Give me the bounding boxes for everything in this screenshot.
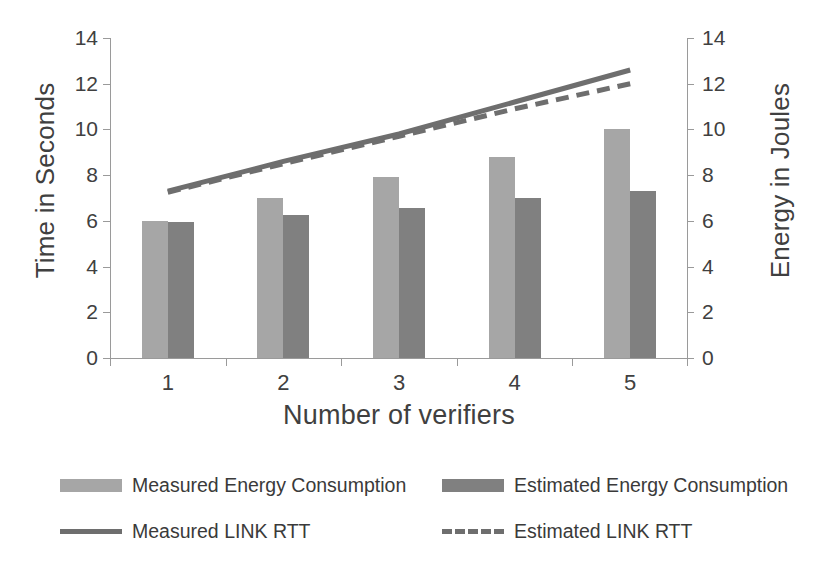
bar-estimated-energy bbox=[630, 191, 656, 358]
bar-estimated-energy bbox=[399, 208, 425, 358]
y-axis-left-tick-mark bbox=[103, 129, 110, 130]
y-axis-right-tick-label: 0 bbox=[702, 347, 748, 368]
legend-row-bars: Measured Energy Consumption Estimated En… bbox=[60, 468, 780, 502]
bar-estimated-energy bbox=[283, 215, 309, 358]
y-axis-left-tick-label: 10 bbox=[52, 118, 98, 139]
y-axis-left-tick-mark bbox=[103, 221, 110, 222]
y-axis-right-tick-label: 14 bbox=[702, 27, 748, 48]
x-axis-tick-mark bbox=[687, 358, 688, 366]
x-axis-tick-label: 2 bbox=[253, 372, 313, 394]
legend-item-estimated-rtt: Estimated LINK RTT bbox=[442, 520, 692, 543]
legend-row-lines: Measured LINK RTT Estimated LINK RTT bbox=[60, 514, 780, 548]
bar-measured-energy bbox=[373, 177, 399, 358]
y-axis-left-tick-mark bbox=[103, 267, 110, 268]
y-axis-right-tick-mark bbox=[687, 129, 694, 130]
chart-legend: Measured Energy Consumption Estimated En… bbox=[60, 468, 780, 563]
legend-item-measured-energy: Measured Energy Consumption bbox=[60, 474, 406, 497]
x-axis-tick-label: 1 bbox=[138, 372, 198, 394]
y-axis-left-tick-mark bbox=[103, 312, 110, 313]
x-axis-tick-mark bbox=[572, 358, 573, 366]
y-axis-left-tick-label: 0 bbox=[52, 347, 98, 368]
y-axis-left-tick-label: 8 bbox=[52, 164, 98, 185]
y-axis-right-tick-mark bbox=[687, 358, 694, 359]
legend-swatch-line-icon bbox=[60, 529, 122, 534]
x-axis-tick-mark bbox=[226, 358, 227, 366]
y-axis-left-tick-mark bbox=[103, 175, 110, 176]
y-axis-right-tick-mark bbox=[687, 84, 694, 85]
y-axis-right-tick-mark bbox=[687, 221, 694, 222]
bar-measured-energy bbox=[142, 221, 168, 358]
legend-label: Estimated Energy Consumption bbox=[514, 474, 788, 497]
estimated-link-rtt-line bbox=[168, 84, 630, 193]
legend-swatch-bar-icon bbox=[442, 479, 504, 492]
y-axis-right-tick-label: 10 bbox=[702, 118, 748, 139]
x-axis-title: Number of verifiers bbox=[110, 400, 688, 431]
x-axis-tick-label: 4 bbox=[485, 372, 545, 394]
y-axis-right-tick-label: 4 bbox=[702, 256, 748, 277]
plot-area bbox=[110, 38, 688, 358]
y-axis-left-tick-mark bbox=[103, 358, 110, 359]
y-axis-right-tick-label: 2 bbox=[702, 301, 748, 322]
x-axis-tick-mark bbox=[341, 358, 342, 366]
y-axis-right-tick-mark bbox=[687, 175, 694, 176]
y-axis-left-tick-label: 12 bbox=[52, 73, 98, 94]
y-axis-right-tick-label: 6 bbox=[702, 210, 748, 231]
legend-label: Measured Energy Consumption bbox=[132, 474, 406, 497]
y-axis-left-tick-mark bbox=[103, 38, 110, 39]
y-axis-left-tick-label: 6 bbox=[52, 210, 98, 231]
y-axis-right-tick-mark bbox=[687, 312, 694, 313]
y-axis-left-tick-label: 4 bbox=[52, 256, 98, 277]
y-axis-left-tick-label: 2 bbox=[52, 301, 98, 322]
legend-label: Measured LINK RTT bbox=[132, 520, 310, 543]
y-axis-left-tick-mark bbox=[103, 84, 110, 85]
bar-measured-energy bbox=[257, 198, 283, 358]
legend-item-estimated-energy: Estimated Energy Consumption bbox=[442, 474, 788, 497]
bar-estimated-energy bbox=[168, 222, 194, 358]
y-axis-right-tick-mark bbox=[687, 267, 694, 268]
y-axis-right-title: Energy in Joules bbox=[765, 31, 796, 331]
legend-swatch-bar-icon bbox=[60, 479, 122, 492]
legend-label: Estimated LINK RTT bbox=[514, 520, 692, 543]
chart-figure: Time in Seconds Energy in Joules Number … bbox=[0, 0, 823, 575]
legend-swatch-dashed-line-icon bbox=[442, 529, 504, 534]
legend-item-measured-rtt: Measured LINK RTT bbox=[60, 520, 310, 543]
y-axis-right-tick-label: 8 bbox=[702, 164, 748, 185]
y-axis-right-tick-label: 12 bbox=[702, 73, 748, 94]
x-axis-tick-label: 3 bbox=[369, 372, 429, 394]
x-axis-tick-mark bbox=[457, 358, 458, 366]
x-axis-tick-mark bbox=[110, 358, 111, 366]
x-axis-tick-label: 5 bbox=[600, 372, 660, 394]
y-axis-right-tick-mark bbox=[687, 38, 694, 39]
bar-measured-energy bbox=[489, 157, 515, 358]
y-axis-left-tick-label: 14 bbox=[52, 27, 98, 48]
bar-measured-energy bbox=[604, 129, 630, 358]
bar-estimated-energy bbox=[515, 198, 541, 358]
